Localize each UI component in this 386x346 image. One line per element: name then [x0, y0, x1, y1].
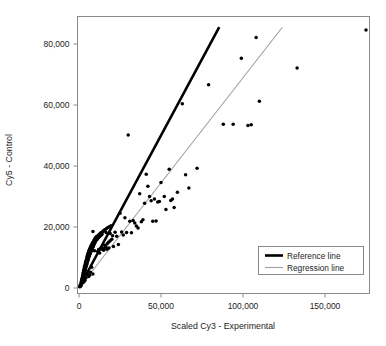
- data-point: [254, 36, 258, 40]
- data-point: [122, 233, 126, 237]
- data-point: [141, 218, 145, 222]
- data-point: [115, 234, 119, 238]
- data-point: [149, 199, 153, 203]
- data-point: [120, 230, 124, 234]
- data-point: [110, 237, 114, 241]
- data-point: [171, 197, 175, 201]
- data-point: [98, 251, 102, 255]
- data-point: [158, 200, 162, 204]
- data-point: [138, 192, 142, 196]
- data-point: [99, 246, 103, 250]
- data-point: [153, 197, 157, 201]
- chart-canvas: 020,00040,00060,00080,000 050,000100,000…: [0, 0, 386, 346]
- data-point: [151, 219, 155, 223]
- data-point: [111, 234, 115, 238]
- data-point: [104, 231, 108, 235]
- chart-legend: Reference lineRegression line: [259, 247, 364, 275]
- data-point: [109, 224, 113, 228]
- data-point: [181, 102, 185, 106]
- x-tick-label: 0: [77, 301, 82, 311]
- data-point: [249, 123, 253, 127]
- data-point: [117, 243, 121, 247]
- x-tick-label: 50,000: [148, 301, 174, 311]
- data-point: [163, 195, 167, 199]
- chart-background: [0, 0, 386, 346]
- data-point: [240, 57, 244, 61]
- y-tick-label: 20,000: [44, 222, 70, 232]
- y-tick-label: 0: [65, 283, 70, 293]
- data-point: [123, 216, 127, 220]
- data-point: [231, 122, 235, 126]
- data-point: [159, 181, 163, 185]
- data-point: [167, 168, 171, 172]
- data-point: [207, 83, 211, 87]
- data-point: [112, 245, 116, 249]
- data-point: [222, 122, 226, 126]
- data-point: [195, 166, 199, 170]
- x-axis-title: Scaled Cy3 - Experimental: [171, 321, 275, 331]
- data-point: [184, 173, 188, 177]
- legend-label-regression-line: Regression line: [287, 263, 345, 273]
- y-tick-label: 40,000: [44, 161, 70, 171]
- data-point: [133, 221, 137, 225]
- data-point: [258, 100, 262, 104]
- legend-label-reference-line: Reference line: [287, 251, 341, 261]
- y-tick-label: 80,000: [44, 39, 70, 49]
- data-point: [176, 190, 180, 194]
- data-point: [118, 212, 122, 216]
- data-point: [125, 231, 129, 235]
- data-point: [148, 195, 152, 199]
- data-point: [144, 172, 148, 176]
- data-point: [86, 273, 90, 277]
- data-point: [130, 231, 134, 235]
- data-point: [136, 226, 140, 230]
- data-point: [187, 186, 191, 190]
- data-point: [246, 124, 250, 128]
- data-point: [364, 28, 368, 32]
- x-tick-label: 150,000: [310, 301, 341, 311]
- data-point: [107, 246, 111, 250]
- data-point: [128, 219, 132, 223]
- data-point: [90, 266, 94, 270]
- y-axis-title: Cy5 - Control: [4, 134, 14, 186]
- data-point: [126, 133, 130, 137]
- data-point: [82, 280, 86, 284]
- scatter-chart: 020,00040,00060,00080,000 050,000100,000…: [0, 0, 386, 346]
- data-point: [172, 206, 176, 210]
- y-tick-label: 60,000: [44, 100, 70, 110]
- data-point: [91, 230, 95, 234]
- data-point: [164, 208, 168, 212]
- data-point: [93, 249, 97, 253]
- data-point: [295, 66, 299, 70]
- x-tick-label: 100,000: [228, 301, 259, 311]
- data-point: [113, 230, 117, 234]
- data-point: [146, 184, 150, 188]
- data-point: [154, 219, 158, 223]
- data-point: [143, 201, 147, 205]
